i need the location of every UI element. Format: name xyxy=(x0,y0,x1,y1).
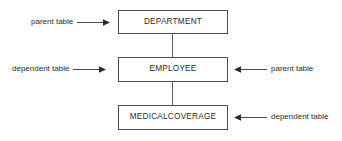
annotation-parent-department: parent table xyxy=(31,16,110,28)
arrow-right-icon xyxy=(77,18,110,27)
entity-box-medicalcoverage[interactable]: MEDICALCOVERAGE xyxy=(118,105,228,130)
connector-employee-to-medicalcoverage xyxy=(172,81,173,106)
arrow-left-icon xyxy=(234,113,267,122)
entity-label-employee: EMPLOYEE xyxy=(149,65,196,73)
annotation-dependent-medicalcoverage: dependent table xyxy=(234,111,328,123)
arrow-right-icon xyxy=(73,65,106,74)
connector-department-to-employee xyxy=(172,33,173,58)
entity-label-medicalcoverage: MEDICALCOVERAGE xyxy=(130,113,217,121)
annotation-parent-employee: parent table xyxy=(234,63,313,75)
entity-box-employee[interactable]: EMPLOYEE xyxy=(118,57,228,82)
entity-relationship-diagram: DEPARTMENT EMPLOYEE MEDICALCOVERAGE pare… xyxy=(0,0,342,141)
annotation-label-parent-employee: parent table xyxy=(271,65,313,73)
entity-box-department[interactable]: DEPARTMENT xyxy=(118,10,228,34)
annotation-label-parent-department: parent table xyxy=(31,18,73,26)
annotation-label-dependent-employee: dependent table xyxy=(12,65,69,73)
entity-label-department: DEPARTMENT xyxy=(144,18,202,26)
annotation-dependent-employee: dependent table xyxy=(12,63,106,75)
annotation-label-dependent-medicalcoverage: dependent table xyxy=(271,113,328,121)
arrow-left-icon xyxy=(234,65,267,74)
